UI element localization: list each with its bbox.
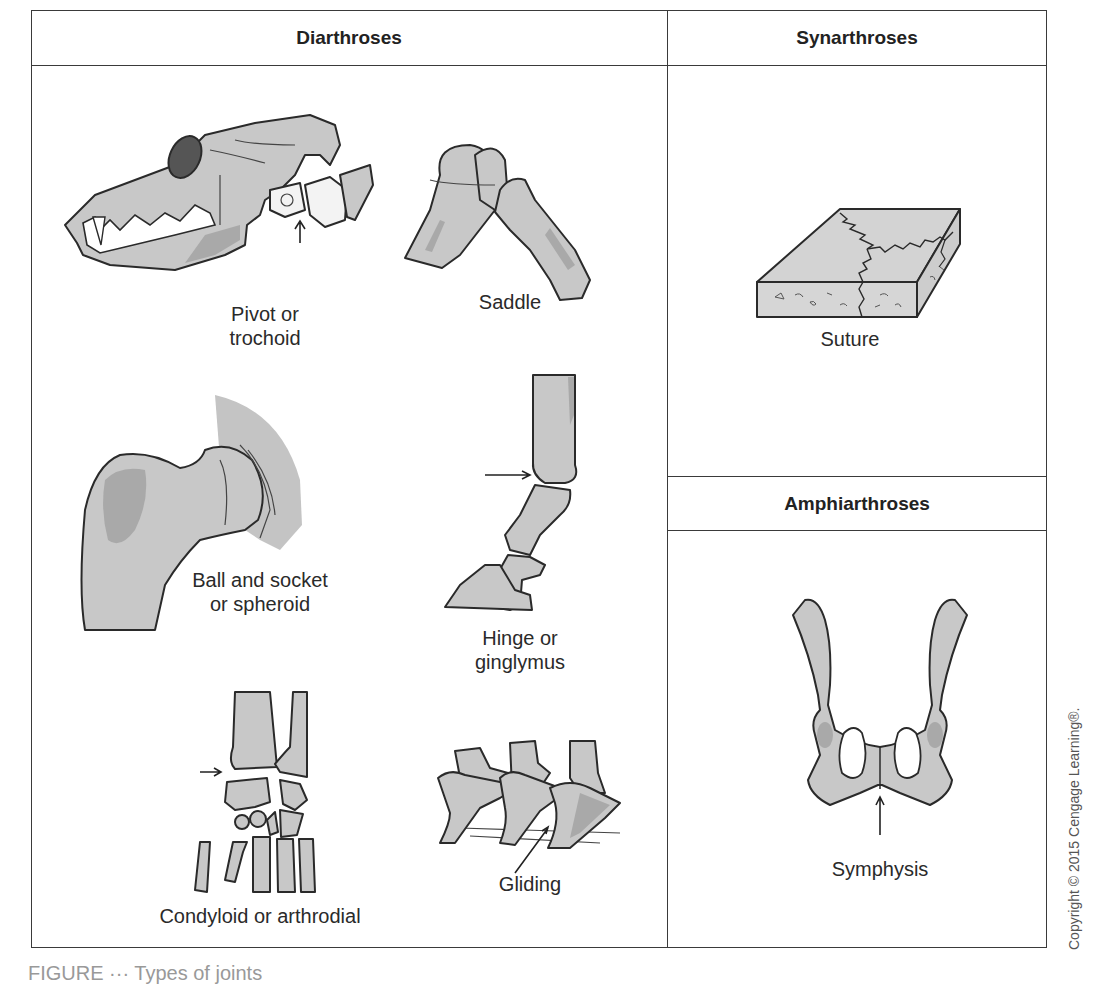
label-suture: Suture: [780, 327, 920, 351]
gliding-joint-illustration: [430, 733, 630, 858]
header-synarthroses: Synarthroses: [667, 27, 1047, 49]
condyloid-joint-illustration: [195, 692, 335, 892]
column-divider: [667, 10, 668, 948]
label-pivot: Pivot or trochoid: [185, 302, 345, 350]
hinge-joint-illustration: [440, 375, 580, 615]
label-symphysis: Symphysis: [795, 857, 965, 881]
symphysis-illustration: [790, 595, 970, 840]
label-hinge: Hinge or ginglymus: [440, 626, 600, 674]
label-gliding: Gliding: [460, 872, 600, 896]
suture-illustration: [755, 207, 965, 319]
dog-skull-illustration: [55, 105, 375, 285]
header-diarthroses: Diarthroses: [31, 27, 667, 49]
label-ball-and-socket: Ball and socket or spheroid: [160, 568, 360, 616]
amphiarthroses-header-divider: [667, 530, 1047, 531]
label-saddle: Saddle: [430, 290, 590, 314]
figure-caption: FIGURE ··· Types of joints: [28, 962, 262, 985]
saddle-joint-illustration: [400, 140, 600, 300]
label-condyloid: Condyloid or arthrodial: [120, 904, 400, 928]
synarthroses-bottom-divider: [667, 476, 1047, 477]
copyright-notice: Copyright © 2015 Cengage Learning®.: [1066, 708, 1082, 950]
header-amphiarthroses: Amphiarthroses: [667, 493, 1047, 515]
header-divider: [31, 65, 1047, 66]
